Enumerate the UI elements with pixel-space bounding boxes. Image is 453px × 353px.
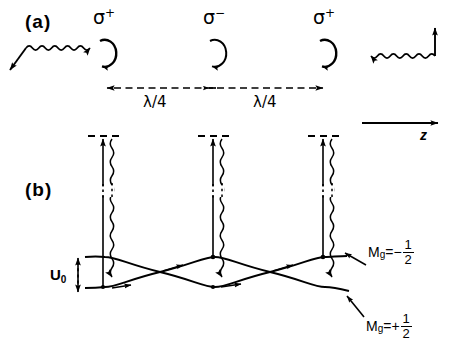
fraction-denominator: 2 (403, 252, 414, 267)
emission-wavy-arrow-1 (110, 139, 113, 277)
sigma-plus-rotation-icon-1 (100, 40, 116, 67)
potential-depth-label: U0 (50, 267, 66, 282)
right-beam-group (371, 28, 435, 58)
u0-sub: 0 (61, 274, 67, 285)
absorption-arrow-break-dots (103, 184, 323, 198)
sigma-charge: + (325, 6, 335, 20)
sigma-glyph: σ (203, 6, 215, 28)
sigma-plus-label-1: σ+ (93, 8, 115, 27)
sigma-minus-rotation-icon (210, 40, 226, 67)
left-beam-wave (26, 46, 90, 50)
fraction-numerator: 1 (403, 238, 414, 252)
sigma-charge: + (105, 6, 115, 20)
mg-sub: g (380, 250, 386, 260)
lambda-quarter-label-1: λ/4 (143, 95, 166, 110)
mg-equals: =+ (383, 319, 399, 333)
emission-wavy-arrows (110, 139, 333, 277)
sublevel-label-plus-half: Mg=+12 (366, 312, 412, 340)
panel-b-tag: (b) (25, 180, 52, 199)
mg-fraction: 12 (401, 312, 412, 340)
sigma-plus-label-2: σ+ (313, 8, 335, 27)
fraction-numerator: 1 (401, 312, 412, 326)
left-beam-polarization-vector (10, 48, 26, 70)
mg-base: M (366, 319, 378, 333)
panel-a-tag: (a) (25, 12, 51, 31)
sigma-minus-label: σ− (203, 8, 225, 27)
mg-base: M (368, 245, 380, 259)
emission-wavy-arrow-2 (220, 139, 223, 277)
motion-arrow-2 (163, 265, 183, 271)
mg-equals: =− (385, 245, 401, 259)
mg-sub: g (378, 324, 384, 334)
mg-fraction: 12 (403, 238, 414, 266)
sigma-glyph: σ (313, 6, 325, 28)
sigma-glyph: σ (93, 6, 105, 28)
figure-vector-layer (0, 0, 453, 353)
z-axis-label: z (420, 128, 427, 142)
emission-arrow-break-dots (112, 183, 332, 199)
figure-root: (a) (b) σ+ σ− σ+ λ/4 λ/4 z U0 Mg=−12 Mg=… (0, 0, 453, 353)
sigma-plus-rotation-icon-2 (320, 40, 336, 67)
curve-attachment-dots (101, 255, 325, 289)
left-beam-group (10, 46, 90, 70)
mg-minus-leader-line (345, 253, 366, 265)
mg-plus-leader-line (347, 296, 364, 317)
motion-arrow-4 (273, 265, 293, 271)
fraction-denominator: 2 (401, 326, 412, 341)
sigma-charge: − (215, 6, 225, 20)
u0-base: U (50, 266, 61, 283)
sublevel-label-minus-half: Mg=−12 (368, 238, 414, 266)
right-beam-wave (371, 54, 435, 58)
lambda-quarter-label-2: λ/4 (253, 95, 276, 110)
